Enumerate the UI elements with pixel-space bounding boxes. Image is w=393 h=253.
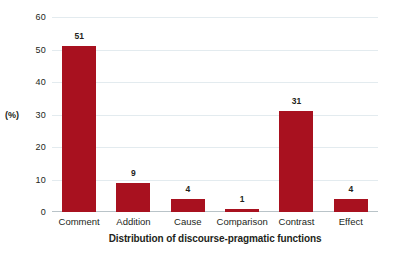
y-tick-label-0: 0 — [8, 207, 46, 217]
bar-slot-addition: 9 Addition — [106, 17, 160, 212]
y-tick-label-50: 50 — [8, 45, 46, 55]
plot-area: 51 Comment 9 Addition 4 Cause 1 Comparis… — [52, 17, 378, 212]
chart-axis-title: Distribution of discourse-pragmatic func… — [52, 233, 378, 244]
category-label-comparison: Comparison — [217, 216, 268, 227]
bar-slot-contrast: 31 Contrast — [269, 17, 323, 212]
category-label-effect: Effect — [339, 216, 363, 227]
y-tick-label-30: 30 — [8, 110, 46, 120]
y-tick-label-20: 20 — [8, 142, 46, 152]
bar-effect[interactable] — [334, 199, 368, 212]
category-label-contrast: Contrast — [279, 216, 315, 227]
bar-comparison[interactable] — [225, 209, 259, 212]
y-tick-label-10: 10 — [8, 175, 46, 185]
category-label-cause: Cause — [174, 216, 201, 227]
bar-value-comparison: 1 — [240, 194, 245, 204]
bar-chart: 60 50 40 30 20 10 0 (%) 51 Comment 9 Add… — [0, 0, 393, 253]
category-label-comment: Comment — [59, 216, 100, 227]
bar-value-comment: 51 — [74, 31, 83, 41]
bar-slot-comparison: 1 Comparison — [215, 17, 269, 212]
bar-slot-cause: 4 Cause — [161, 17, 215, 212]
y-axis-unit-label: (%) — [5, 110, 19, 120]
bar-value-contrast: 31 — [292, 96, 301, 106]
y-tick-label-40: 40 — [8, 77, 46, 87]
category-label-addition: Addition — [116, 216, 150, 227]
bar-addition[interactable] — [116, 183, 150, 212]
bar-value-effect: 4 — [348, 184, 353, 194]
bar-slot-comment: 51 Comment — [52, 17, 106, 212]
bar-comment[interactable] — [62, 46, 96, 212]
bar-cause[interactable] — [171, 199, 205, 212]
bar-value-cause: 4 — [185, 184, 190, 194]
bar-slot-effect: 4 Effect — [324, 17, 378, 212]
y-tick-label-60: 60 — [8, 12, 46, 22]
bar-value-addition: 9 — [131, 168, 136, 178]
bar-contrast[interactable] — [279, 111, 313, 212]
